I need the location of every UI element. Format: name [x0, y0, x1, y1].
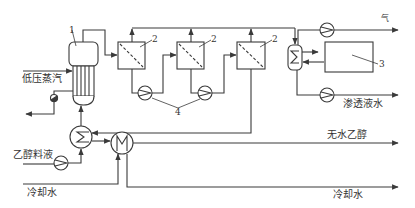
vacuum-tank-number: 3: [379, 60, 385, 69]
low-pressure-steam-label: 低压蒸汽: [22, 74, 62, 84]
cooling-water-in-label: 冷却水: [27, 188, 57, 198]
pumps-number: 4: [175, 108, 181, 117]
condensate-line: [26, 91, 73, 114]
feed-preheater: [70, 126, 92, 148]
membrane-module-3: [237, 40, 272, 69]
cooling-water-out-line: [127, 154, 398, 187]
circulation-pump-1: [138, 86, 152, 100]
anhydrous-ethanol-label: 无水乙醇: [327, 130, 367, 140]
retentate-return-line: [92, 69, 251, 133]
vacuum-pump: [320, 23, 334, 37]
vacuum-tank: [325, 42, 378, 72]
product-cooler: [111, 132, 133, 154]
membrane-3-number: 2: [272, 35, 278, 44]
circulation-pump-2: [198, 86, 212, 100]
gas-label: 气: [381, 15, 389, 23]
permeate-pump: [320, 88, 334, 102]
evaporator-number: 1: [69, 26, 75, 35]
cooling-water-out-label: 冷却水: [333, 190, 363, 200]
permeate-condenser: [288, 45, 302, 70]
membrane-module-2: [177, 40, 211, 69]
permeate-water-label: 渗透液水: [343, 99, 383, 109]
membrane-module-1: [118, 40, 152, 69]
steam-trap: [51, 95, 58, 102]
feed-pump: [54, 156, 68, 170]
ethanol-feed-label: 乙醇料液: [13, 150, 53, 160]
membrane-1-number: 2: [152, 35, 158, 44]
membrane-2-number: 2: [211, 35, 217, 44]
